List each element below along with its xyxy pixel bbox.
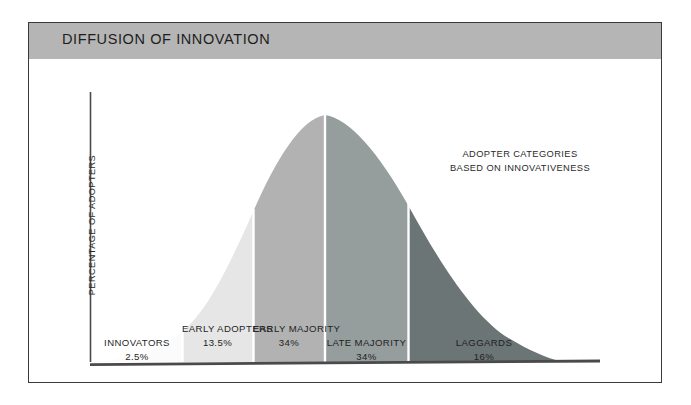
annotation-line-2: BASED ON INNOVATIVENESS <box>410 162 630 176</box>
segment-name: INNOVATORS <box>92 336 182 350</box>
segment-percent: 13.5% <box>182 336 253 350</box>
segment-name: EARLY ADOPTERS <box>182 322 253 336</box>
segment-label-early-majority: EARLY MAJORITY 34% <box>253 322 325 349</box>
segment-label-laggards: LAGGARDS 16% <box>408 336 560 363</box>
segment-label-early-adopters: EARLY ADOPTERS 13.5% <box>182 322 253 349</box>
segment-name: LATE MAJORITY <box>325 336 408 350</box>
segment-percent: 34% <box>253 336 325 350</box>
segment-fill-innovators <box>90 100 182 362</box>
y-axis-label: PERCENTAGE OF ADOPTERS <box>87 125 97 325</box>
segment-percent: 16% <box>408 350 560 364</box>
segment-name: EARLY MAJORITY <box>253 322 325 336</box>
segment-label-innovators: INNOVATORS 2.5% <box>92 336 182 363</box>
annotation-line-1: ADOPTER CATEGORIES <box>410 148 630 162</box>
segment-percent: 2.5% <box>92 350 182 364</box>
segment-label-late-majority: LATE MAJORITY 34% <box>325 336 408 363</box>
segment-percent: 34% <box>325 350 408 364</box>
segment-fill-laggards <box>408 100 560 362</box>
chart-canvas: DIFFUSION OF INNOVATION PERCENTAGE OF A <box>0 0 691 405</box>
chart-annotation: ADOPTER CATEGORIES BASED ON INNOVATIVENE… <box>410 148 630 175</box>
segment-name: LAGGARDS <box>408 336 560 350</box>
